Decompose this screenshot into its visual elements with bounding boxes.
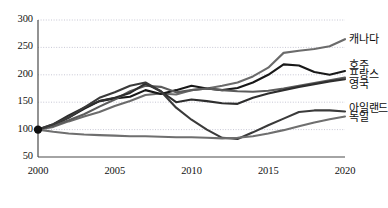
x-tick-label: 2005 [95,165,135,176]
series-label-3: 영국 [349,79,369,91]
y-tick-label: 250 [3,40,33,51]
x-tick-label: 2010 [172,165,212,176]
x-tick-label: 2015 [248,165,288,176]
y-tick-label: 50 [3,150,33,161]
y-tick-label: 200 [3,68,33,79]
base-year-marker [34,125,42,133]
y-tick-label: 300 [3,13,33,24]
y-axis-tick-labels: 30025020015010050 [0,0,33,208]
base-marker-group [34,125,42,133]
series-lines-group [38,39,345,139]
x-tick-label: 2020 [325,165,365,176]
series-label-0: 캐나다 [349,34,378,46]
series-label-5: 독일 [349,112,369,124]
x-tick-label: 2000 [18,165,58,176]
y-tick-label: 150 [3,95,33,106]
y-tick-label: 100 [3,123,33,134]
series-line-0 [38,39,345,129]
